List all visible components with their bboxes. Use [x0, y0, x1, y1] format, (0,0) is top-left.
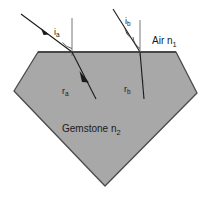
incident-angle-a-label: ia	[54, 27, 60, 38]
gemstone-shape	[14, 52, 197, 186]
refraction-diagram: ia ib ra rb Air n1 Gemstone n2	[0, 0, 209, 204]
incident-angle-b-label: ib	[125, 16, 131, 27]
gemstone-polygon	[14, 52, 197, 186]
incident-ray-b-arrowhead	[124, 28, 131, 39]
incident-ray-a-arrowhead	[41, 29, 49, 36]
air-medium-label: Air n1	[152, 35, 177, 49]
